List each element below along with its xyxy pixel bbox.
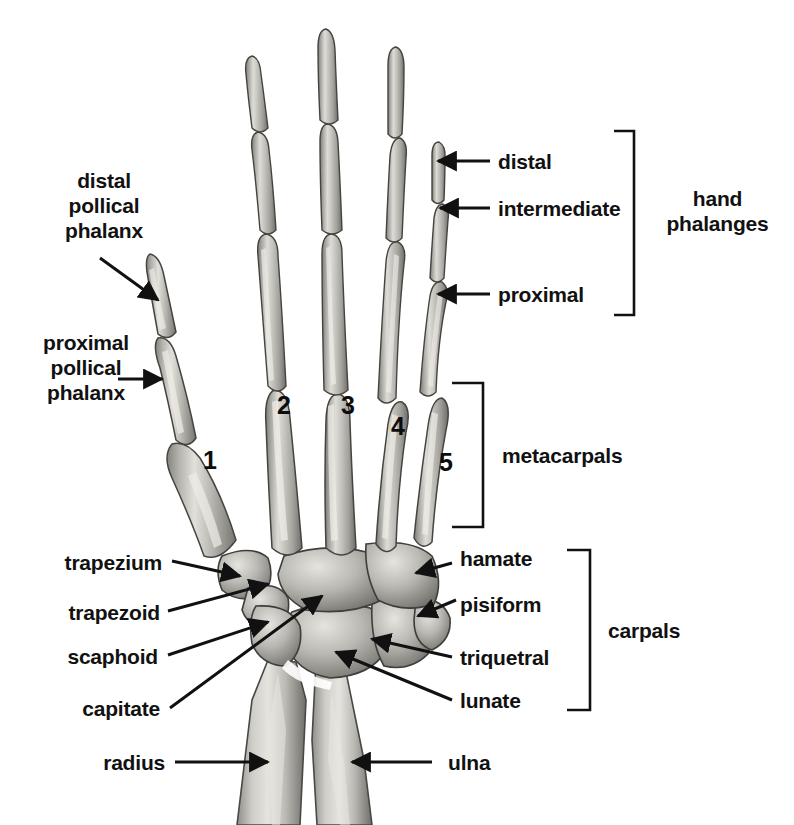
- label-distal-pollical-phalanx: distal pollical phalanx: [24, 168, 184, 243]
- label-proximal: proximal: [498, 282, 584, 307]
- label-intermediate: intermediate: [498, 196, 620, 221]
- metacarpal-number-5: 5: [439, 450, 453, 475]
- label-trapezium: trapezium: [0, 550, 162, 575]
- hand-skeleton-diagram: distal pollical phalanx proximal pollica…: [0, 0, 794, 825]
- label-capitate: capitate: [0, 696, 160, 721]
- intermediate-phalanx-4: [386, 138, 406, 242]
- label-triquetral: triquetral: [460, 645, 549, 670]
- label-radius: radius: [0, 750, 165, 775]
- label-hand-phalanges: hand phalanges: [650, 186, 785, 236]
- label-pisiform: pisiform: [460, 592, 541, 617]
- carpal-bones: [218, 543, 450, 691]
- distal-phalanx-3: [318, 29, 338, 124]
- label-hamate: hamate: [460, 546, 532, 571]
- label-lunate: lunate: [460, 688, 521, 713]
- label-trapezoid: trapezoid: [0, 600, 160, 625]
- finger-3-phalanges: [318, 29, 348, 395]
- metacarpal-number-4: 4: [391, 414, 405, 439]
- metacarpal-number-3: 3: [341, 393, 355, 418]
- distal-phalanx-4: [388, 47, 404, 138]
- hamate-bone: [366, 543, 439, 609]
- metacarpal-number-2: 2: [277, 393, 291, 418]
- finger-5-phalanges: [420, 142, 448, 396]
- intermediate-phalanx-2: [252, 132, 276, 234]
- label-carpals: carpals: [608, 618, 680, 643]
- finger-4-phalanges: [378, 47, 406, 403]
- label-distal: distal: [498, 149, 552, 174]
- forearm-bones: [237, 660, 372, 825]
- label-proximal-pollical-phalanx: proximal pollical phalanx: [6, 330, 166, 405]
- label-metacarpals: metacarpals: [502, 443, 622, 468]
- intermediate-phalanx-3: [320, 124, 342, 234]
- intermediate-phalanx-5: [430, 204, 448, 282]
- label-ulna: ulna: [448, 750, 490, 775]
- distal-phalanx-5: [432, 142, 445, 204]
- distal-phalanx-2: [246, 56, 268, 132]
- metacarpal-number-1: 1: [203, 448, 217, 473]
- label-scaphoid: scaphoid: [0, 644, 158, 669]
- finger-2-phalanges: [246, 56, 286, 391]
